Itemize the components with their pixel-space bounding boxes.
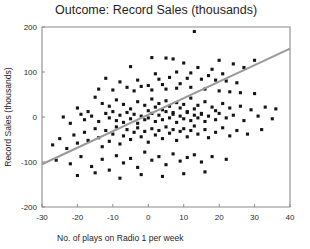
- data-point: [228, 90, 231, 93]
- data-point: [104, 77, 107, 80]
- data-point: [175, 121, 178, 124]
- data-point: [253, 92, 256, 95]
- data-point: [94, 171, 97, 174]
- data-point: [228, 106, 231, 109]
- data-point: [136, 100, 139, 103]
- data-point: [76, 142, 79, 145]
- data-point: [186, 156, 189, 159]
- y-tick-label: -100: [21, 158, 38, 167]
- data-point: [175, 87, 178, 90]
- data-point: [157, 102, 160, 105]
- data-point: [189, 129, 192, 132]
- data-point: [164, 88, 167, 91]
- data-point: [115, 119, 118, 122]
- data-point: [83, 131, 86, 134]
- data-point: [104, 112, 107, 115]
- data-point: [94, 96, 97, 99]
- data-point: [172, 152, 175, 155]
- data-point: [179, 130, 182, 133]
- data-point: [203, 100, 206, 103]
- data-point: [207, 136, 210, 139]
- data-point: [242, 119, 245, 122]
- data-point: [161, 118, 164, 121]
- data-point: [115, 98, 118, 101]
- data-point: [193, 124, 196, 127]
- data-point: [108, 140, 111, 143]
- data-point: [161, 137, 164, 140]
- data-point: [211, 106, 214, 109]
- data-point: [108, 105, 111, 108]
- data-point: [182, 117, 185, 120]
- data-point: [111, 88, 114, 91]
- data-point: [193, 153, 196, 156]
- data-point: [94, 127, 97, 130]
- data-point: [214, 118, 217, 121]
- data-point: [235, 129, 238, 132]
- data-point: [161, 175, 164, 178]
- data-point: [235, 81, 238, 84]
- data-point: [172, 57, 175, 60]
- data-point: [140, 173, 143, 176]
- data-point: [182, 103, 185, 106]
- data-point: [211, 68, 214, 71]
- data-point: [51, 143, 54, 146]
- data-point: [111, 133, 114, 136]
- x-tick-label: -30: [36, 213, 48, 222]
- data-point: [79, 113, 82, 116]
- x-tick-label: 20: [215, 213, 224, 222]
- data-point: [118, 80, 121, 83]
- data-point: [239, 105, 242, 108]
- data-point: [150, 56, 153, 59]
- data-point: [221, 126, 224, 129]
- data-point: [97, 120, 100, 123]
- data-point: [140, 85, 143, 88]
- data-point: [168, 116, 171, 119]
- data-point: [69, 162, 72, 165]
- data-point: [150, 127, 153, 130]
- data-point: [118, 177, 121, 180]
- data-point: [154, 72, 157, 75]
- data-points-layer: [51, 30, 277, 180]
- data-point: [136, 122, 139, 125]
- data-point: [157, 78, 160, 81]
- data-point: [221, 72, 224, 75]
- data-point: [143, 118, 146, 121]
- data-point: [125, 86, 128, 89]
- data-point: [122, 103, 125, 106]
- data-point: [239, 91, 242, 94]
- data-point: [182, 61, 185, 64]
- data-point: [90, 115, 93, 118]
- data-point: [179, 82, 182, 85]
- data-point: [271, 117, 274, 120]
- data-point: [129, 107, 132, 110]
- data-point: [133, 131, 136, 134]
- data-point: [214, 131, 217, 134]
- data-point: [150, 159, 153, 162]
- data-point: [207, 115, 210, 118]
- data-point: [211, 155, 214, 158]
- data-point: [125, 128, 128, 131]
- y-tick-label: 200: [24, 23, 38, 32]
- data-point: [69, 122, 72, 125]
- x-tick-label: 0: [146, 213, 151, 222]
- data-point: [133, 89, 136, 92]
- data-point: [143, 130, 146, 133]
- data-point: [79, 155, 82, 158]
- data-point: [147, 84, 150, 87]
- y-tick-label: -200: [21, 203, 38, 212]
- y-tick-label: 0: [33, 113, 38, 122]
- data-point: [129, 157, 132, 160]
- data-point: [164, 163, 167, 166]
- data-point: [218, 89, 221, 92]
- data-point: [111, 110, 114, 113]
- data-point: [196, 104, 199, 107]
- data-point: [232, 62, 235, 65]
- data-point: [62, 115, 65, 118]
- data-point: [228, 134, 231, 137]
- x-tick-label: 30: [250, 213, 259, 222]
- data-point: [168, 132, 171, 135]
- data-point: [214, 109, 217, 112]
- data-point: [189, 86, 192, 89]
- data-point: [207, 74, 210, 77]
- data-point: [161, 83, 164, 86]
